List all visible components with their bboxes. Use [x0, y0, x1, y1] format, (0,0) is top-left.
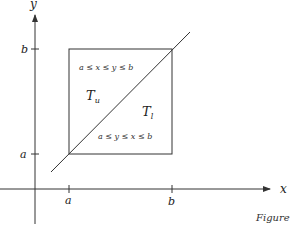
x-tick-label-a: a — [65, 194, 72, 207]
upper-region-condition: a ≤ x ≤ y ≤ b — [79, 63, 133, 72]
diagonal-line — [51, 32, 190, 172]
diagram-canvas: x y a b a b a ≤ x ≤ y ≤ b a ≤ y ≤ x ≤ b … — [0, 0, 295, 227]
y-tick-label-b: b — [21, 43, 28, 56]
figure-caption: Figure — [256, 212, 290, 223]
y-tick-label-a: a — [20, 148, 27, 161]
lower-region-label: Tl — [142, 104, 154, 121]
integration-region-diagram: x y a b a b a ≤ x ≤ y ≤ b a ≤ y ≤ x ≤ b … — [0, 0, 295, 227]
y-axis-label: y — [29, 0, 37, 11]
x-tick-label-b: b — [168, 195, 175, 208]
x-axis-label: x — [280, 182, 287, 196]
lower-region-condition: a ≤ y ≤ x ≤ b — [98, 132, 152, 141]
upper-region-label: Tu — [86, 88, 100, 105]
